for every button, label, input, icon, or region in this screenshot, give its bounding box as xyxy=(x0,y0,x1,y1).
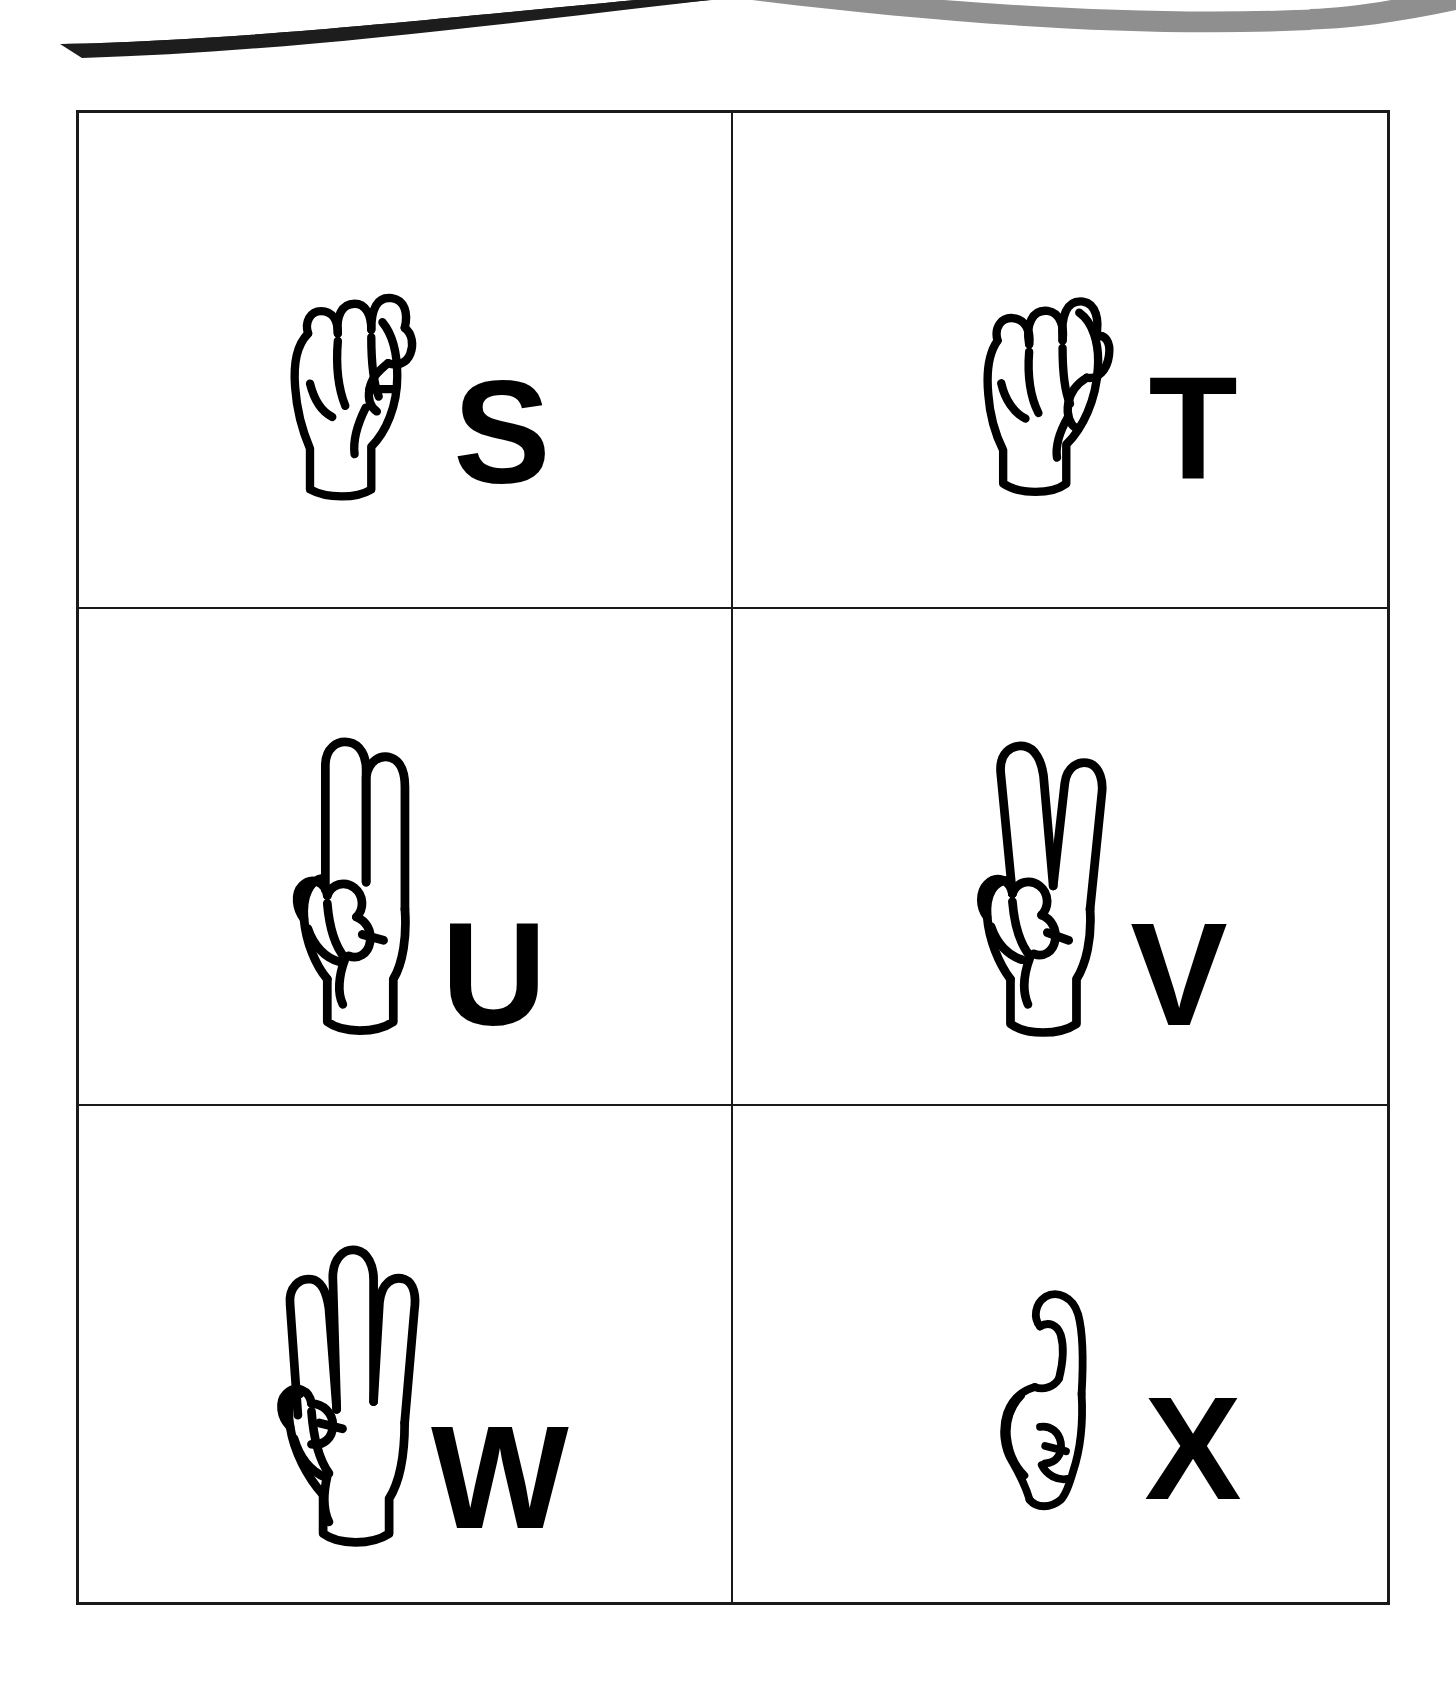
flashcard-cell-t[interactable]: T xyxy=(733,113,1387,609)
sign-letter-label: V xyxy=(1130,918,1225,1032)
wave-gray-swoosh-tail xyxy=(1300,0,1456,30)
sign-letter-label: U xyxy=(441,918,544,1032)
card-content: X xyxy=(940,1264,1239,1524)
wave-dark-swoosh-thin xyxy=(60,0,712,44)
wave-dark-swoosh xyxy=(60,0,760,58)
flashcard-cell-v[interactable]: V xyxy=(733,609,1387,1105)
card-content: V xyxy=(926,719,1225,1049)
flashcard-cell-u[interactable]: U xyxy=(79,609,733,1105)
sign-letter-label: X xyxy=(1144,1392,1239,1506)
sign-letter-label: T xyxy=(1148,372,1235,486)
flashcard-cell-s[interactable]: S xyxy=(79,113,733,609)
card-content: U xyxy=(237,719,544,1049)
flashcard-cell-w[interactable]: W xyxy=(79,1106,733,1602)
flashcard-cell-x[interactable]: X xyxy=(733,1106,1387,1602)
asl-hand-s-icon xyxy=(249,248,449,508)
asl-hand-x-icon xyxy=(940,1264,1140,1524)
card-content: T xyxy=(944,244,1235,504)
wave-banner xyxy=(0,0,1456,70)
asl-hand-u-icon xyxy=(237,719,437,1049)
sign-letter-label: W xyxy=(431,1421,567,1535)
flashcard-grid: S xyxy=(76,110,1390,1605)
sign-letter-label: S xyxy=(453,376,548,490)
asl-hand-v-icon xyxy=(926,719,1126,1049)
card-content: W xyxy=(227,1223,567,1553)
asl-hand-t-icon xyxy=(944,244,1144,504)
wave-gray-swoosh xyxy=(720,0,1340,32)
asl-hand-w-icon xyxy=(227,1223,427,1553)
card-content: S xyxy=(249,248,548,508)
